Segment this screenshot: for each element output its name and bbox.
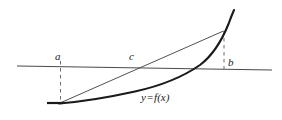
function-curve (59, 10, 234, 104)
function-equation-label: y=f(x) (141, 92, 169, 103)
axis-label-a: a (55, 51, 61, 62)
function-label-fx: f(x) (154, 91, 169, 103)
function-label-equals: = (146, 91, 154, 103)
axis-label-b: b (228, 57, 234, 68)
axis-label-c: c (129, 51, 134, 62)
math-figure-diagram: a c b y=f(x) (0, 0, 282, 120)
